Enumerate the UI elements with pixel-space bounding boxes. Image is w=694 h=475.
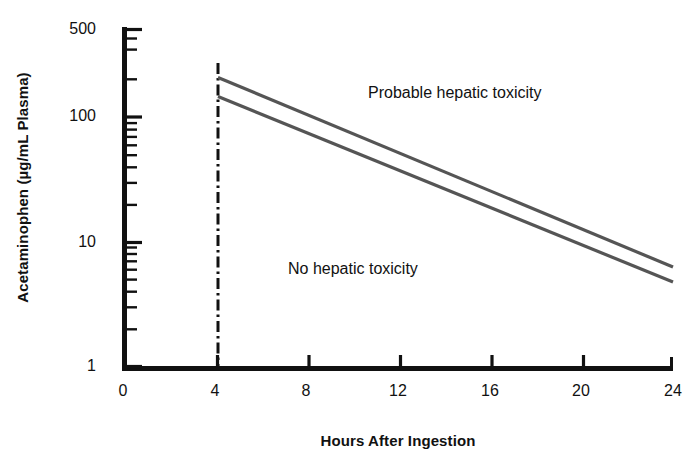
plot-area <box>0 0 694 475</box>
x-major-ticks <box>218 355 584 367</box>
treatment-line <box>218 97 673 283</box>
probable-toxicity-line <box>218 78 673 268</box>
nomogram-figure: Acetaminophen (µg/mL Plasma) 500 100 10 … <box>0 0 694 475</box>
axis-spines <box>122 27 673 371</box>
y-minor-ticks <box>127 39 137 330</box>
